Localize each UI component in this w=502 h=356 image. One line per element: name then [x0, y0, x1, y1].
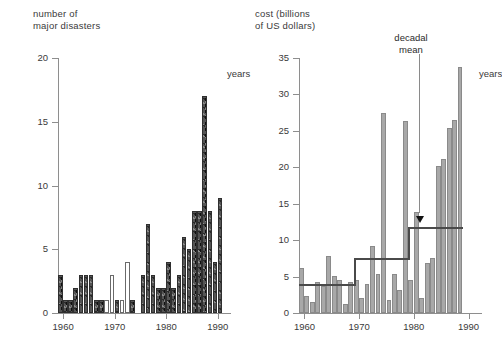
bar-1976 — [146, 224, 151, 313]
y-axis-tick — [52, 58, 58, 59]
bar-1969 — [110, 275, 115, 313]
bar-1971 — [365, 284, 370, 313]
bar-1982 — [425, 263, 430, 313]
bar-1980 — [166, 262, 171, 313]
bar-1965 — [89, 275, 94, 313]
bar-1972 — [370, 246, 375, 313]
x-axis-tick-label: 1960 — [294, 321, 315, 332]
bar-1967 — [99, 300, 104, 313]
bar-1973 — [130, 300, 135, 313]
bar-1979 — [161, 288, 166, 314]
y-axis-tick-label: 20 — [22, 52, 48, 63]
x-axis-tick — [359, 313, 360, 319]
x-axis-tick-label: 1990 — [207, 321, 228, 332]
bar-1986 — [197, 211, 202, 313]
x-axis-tick-label: 1970 — [349, 321, 370, 332]
decadal-mean-riser — [408, 227, 410, 260]
bar-1962 — [315, 282, 320, 313]
bar-1983 — [182, 237, 187, 314]
bar-1960 — [304, 296, 309, 313]
bar-1981 — [171, 288, 176, 314]
bar-1959 — [58, 275, 63, 313]
bar-1970 — [115, 300, 120, 313]
decadal-mean-annotation-label: decadal mean — [378, 32, 444, 56]
x-axis-tick-label: 1970 — [104, 321, 125, 332]
bar-1961 — [310, 302, 315, 313]
right-axis-title: cost (billions of US dollars) — [255, 8, 315, 32]
annotation-arrow-head-icon — [416, 216, 424, 223]
bar-1964 — [84, 275, 89, 313]
bar-1978 — [403, 121, 408, 313]
y-axis-tick-label: 5 — [263, 271, 289, 282]
bar-1963 — [321, 286, 326, 313]
bar-1963 — [79, 275, 84, 313]
left-bar-series — [58, 58, 223, 313]
right-x-axis — [299, 313, 482, 314]
y-axis-tick-label: 0 — [263, 307, 289, 318]
y-axis-tick — [293, 240, 299, 241]
y-axis-tick-label: 5 — [22, 243, 48, 254]
bar-1973 — [376, 274, 381, 313]
y-axis-tick — [293, 277, 299, 278]
bar-1990 — [218, 198, 223, 313]
x-axis-tick — [115, 313, 116, 319]
bar-1970 — [359, 298, 364, 313]
y-axis-tick-label: 0 — [22, 307, 48, 318]
decadal-mean-segment — [299, 284, 354, 286]
y-axis-tick-label: 20 — [263, 161, 289, 172]
bar-1977 — [397, 290, 402, 313]
y-axis-tick — [293, 167, 299, 168]
bar-1984 — [187, 249, 192, 313]
bar-1976 — [392, 274, 397, 313]
bar-1989 — [213, 262, 218, 313]
right-bar-series — [299, 58, 474, 313]
bar-1983 — [430, 258, 435, 313]
y-axis-tick — [52, 122, 58, 123]
y-axis-tick — [293, 204, 299, 205]
bar-1978 — [156, 288, 161, 314]
x-axis-tick — [304, 313, 305, 319]
y-axis-tick-label: 25 — [263, 125, 289, 136]
bar-1981 — [419, 298, 424, 313]
x-axis-tick — [414, 313, 415, 319]
right-x-unit-label: years — [479, 68, 502, 79]
y-axis-tick — [293, 94, 299, 95]
x-axis-tick — [469, 313, 470, 319]
bar-1968 — [104, 300, 109, 313]
x-axis-tick-label: 1990 — [458, 321, 479, 332]
bar-1965 — [332, 276, 337, 313]
x-axis-tick — [218, 313, 219, 319]
y-axis-tick — [52, 186, 58, 187]
bar-1986 — [447, 128, 452, 313]
bar-1962 — [73, 288, 78, 314]
bar-1988 — [458, 67, 463, 313]
bar-1961 — [68, 300, 73, 313]
y-axis-tick-label: 15 — [22, 116, 48, 127]
y-axis-tick-label: 15 — [263, 198, 289, 209]
bar-1985 — [192, 211, 197, 313]
bar-1966 — [94, 300, 99, 313]
right-chart-panel: cost (billions of US dollars) 0510152025… — [243, 0, 486, 356]
bar-1988 — [208, 211, 213, 313]
bar-1960 — [63, 300, 68, 313]
bar-1972 — [125, 262, 130, 313]
left-x-axis — [58, 313, 231, 314]
y-axis-tick — [293, 131, 299, 132]
left-axis-title: number of major disasters — [33, 8, 100, 32]
x-axis-tick-label: 1980 — [403, 321, 424, 332]
bar-1979 — [408, 280, 413, 314]
right-plot-area: 05101520253035 1960197019801990 years de… — [299, 58, 474, 313]
left-chart-panel: number of major disasters 05101520 19601… — [0, 0, 243, 356]
decadal-mean-riser — [354, 258, 356, 286]
left-plot-area: 05101520 1960197019801990 years — [58, 58, 223, 313]
y-axis-tick-label: 10 — [263, 234, 289, 245]
y-axis-tick — [52, 249, 58, 250]
decadal-mean-segment — [354, 258, 409, 260]
x-axis-tick — [63, 313, 64, 319]
y-axis-tick — [293, 313, 299, 314]
bar-1967 — [343, 304, 348, 313]
bar-1982 — [177, 275, 182, 313]
bar-1959 — [299, 268, 304, 313]
bar-1977 — [151, 275, 156, 313]
x-axis-tick-label: 1980 — [156, 321, 177, 332]
